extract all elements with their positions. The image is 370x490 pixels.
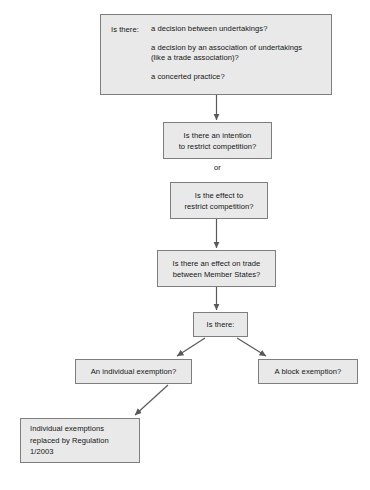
node-intention-question[interactable]: Is there an intention to restrict compet… [163, 122, 272, 159]
node-effect-question[interactable]: Is the effect to restrict competition? [170, 182, 268, 219]
node-effect-line1: Is the effect to [195, 190, 243, 201]
agreement-item-list: a decision between undertakings? a decis… [151, 24, 302, 82]
node-individual-exemption-label: An individual exemption? [91, 366, 177, 377]
node-regulation-note[interactable]: Individual exemptions replaced by Regula… [20, 418, 140, 463]
agreement-item-decision-between: a decision between undertakings? [151, 24, 302, 35]
node-intention-line2: to restrict competition? [179, 141, 257, 152]
node-block-exemption[interactable]: A block exemption? [258, 359, 358, 384]
flowchart-canvas: Is there: a decision between undertaking… [0, 0, 370, 490]
agreement-item-concerted-practice: a concerted practice? [151, 72, 302, 83]
node-regulation-line3: 1/2003 [30, 446, 54, 458]
node-trade-question[interactable]: Is there an effect on trade between Memb… [157, 250, 276, 287]
node-trade-line2: between Member States? [173, 269, 261, 280]
node-is-there-label: Is there: [207, 319, 235, 330]
node-individual-exemption[interactable]: An individual exemption? [75, 359, 192, 384]
connector-isthere-to-block [237, 338, 266, 356]
node-intention-line1: Is there an intention [184, 130, 252, 141]
connector-individual-to-regulation [135, 385, 168, 415]
or-connector-label: or [163, 163, 272, 172]
node-trade-line1: Is there an effect on trade [173, 258, 261, 269]
agreement-item-association: a decision by an association of undertak… [151, 43, 302, 64]
node-agreement-question[interactable]: Is there: a decision between undertaking… [100, 14, 332, 95]
node-effect-line2: restrict competition? [185, 201, 254, 212]
node-is-there-branch[interactable]: Is there: [193, 312, 248, 337]
agreement-label: Is there: [111, 24, 151, 35]
node-block-exemption-label: A block exemption? [275, 366, 342, 377]
node-regulation-line2: replaced by Regulation [30, 435, 109, 447]
connector-isthere-to-individual [177, 338, 205, 356]
node-regulation-line1: Individual exemptions [30, 423, 104, 435]
